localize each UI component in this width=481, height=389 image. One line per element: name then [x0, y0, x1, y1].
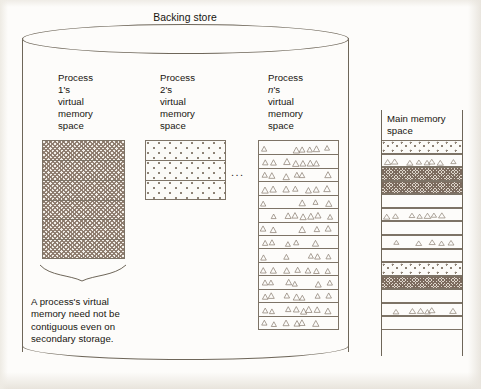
process-1-memory-block: [42, 140, 125, 259]
main-memory-block: [382, 221, 462, 235]
process-1-brace: [38, 262, 130, 284]
process-n-row-divider: [259, 181, 338, 182]
process-n-row-divider: [259, 248, 338, 249]
process-2-memory-block: [145, 140, 226, 200]
backing-store-cylinder-top: [22, 24, 349, 54]
process-n-row-divider: [259, 289, 338, 290]
process-n-row-divider: [259, 316, 338, 317]
main-memory-block: [382, 303, 462, 317]
process-n-row-divider: [259, 195, 338, 196]
page-edge-left: [0, 0, 8, 389]
process-n-row-divider: [259, 235, 338, 236]
process-1-label: Process 1's virtual memory space: [58, 72, 138, 132]
main-memory-block: [382, 154, 462, 168]
process-n-row-divider: [259, 168, 338, 169]
main-memory-block: [382, 140, 462, 154]
figure-canvas: Backing store Process 1's virtual memory…: [0, 0, 481, 389]
process-n-row-divider: [259, 222, 338, 223]
main-memory-block-list: [382, 140, 462, 330]
main-memory-block: [382, 316, 462, 330]
main-memory-block: [382, 262, 462, 276]
main-memory-block: [382, 235, 462, 249]
main-memory-block: [382, 276, 462, 290]
process-n-row-divider: [259, 154, 338, 155]
main-memory-block: [382, 208, 462, 222]
process-n-label: Process n's virtual memory space: [268, 72, 348, 132]
main-memory-block: [382, 181, 462, 195]
main-memory-block: [382, 194, 462, 208]
process-n-label-text: Process: [268, 72, 303, 83]
main-memory-label: Main memory space: [387, 113, 465, 137]
process-n-row-divider: [259, 208, 338, 209]
figure-caption: A process's virtual memory need not be c…: [31, 296, 181, 346]
ellipsis-between-processes: ...: [231, 166, 244, 178]
main-memory-block: [382, 289, 462, 303]
page-edge-bottom: [0, 372, 481, 389]
process-n-memory-block: [258, 140, 339, 330]
process-n-row-divider: [259, 302, 338, 303]
process-2-label: Process 2's virtual memory space: [160, 72, 240, 132]
backing-store-title: Backing store: [0, 12, 370, 24]
page-edge-top: [0, 0, 481, 7]
main-memory-block: [382, 249, 462, 263]
page-edge-right: [468, 0, 481, 389]
process-n-label-rest: 's virtual memory space: [268, 84, 303, 131]
process-n-row-divider: [259, 275, 338, 276]
main-memory-block: [382, 167, 462, 181]
process-n-row-divider: [259, 262, 338, 263]
